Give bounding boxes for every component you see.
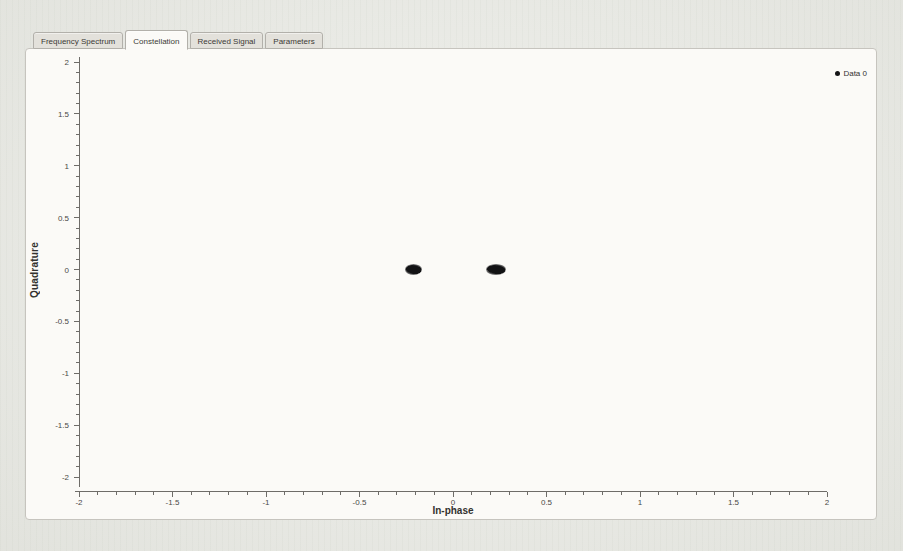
x-major-tick xyxy=(733,492,734,497)
x-minor-tick xyxy=(191,492,192,495)
y-minor-tick xyxy=(76,290,79,291)
plot-canvas[interactable]: In-phase Quadrature Data 0 -2-1.5-1-0.50… xyxy=(26,49,876,519)
x-major-tick xyxy=(79,492,80,497)
y-minor-tick xyxy=(76,155,79,156)
x-minor-tick xyxy=(471,492,472,495)
y-major-tick xyxy=(74,165,79,166)
x-minor-tick xyxy=(434,492,435,495)
x-minor-tick xyxy=(97,492,98,495)
y-tick-label: 1.5 xyxy=(41,110,69,119)
x-major-tick xyxy=(453,492,454,497)
x-major-tick xyxy=(359,492,360,497)
x-major-tick xyxy=(546,492,547,497)
y-tick-label: 2 xyxy=(41,58,69,67)
x-minor-tick xyxy=(621,492,622,495)
y-tick-label: -0.5 xyxy=(41,317,69,326)
y-tick-label: -1.5 xyxy=(41,421,69,430)
y-minor-tick xyxy=(76,134,79,135)
x-tick-label: 0 xyxy=(438,498,468,507)
y-major-tick xyxy=(74,269,79,270)
y-major-tick xyxy=(74,373,79,374)
x-tick-label: 1.5 xyxy=(719,498,749,507)
y-minor-tick xyxy=(76,93,79,94)
x-minor-tick xyxy=(509,492,510,495)
y-minor-tick xyxy=(76,362,79,363)
x-major-tick xyxy=(640,492,641,497)
x-minor-tick xyxy=(527,492,528,495)
app-window: { "tabs": { "items": [ { "label": "Frequ… xyxy=(0,0,903,551)
x-minor-tick xyxy=(658,492,659,495)
x-minor-tick xyxy=(284,492,285,495)
y-axis-line xyxy=(79,57,80,487)
x-minor-tick xyxy=(322,492,323,495)
x-minor-tick xyxy=(583,492,584,495)
y-major-tick xyxy=(74,321,79,322)
y-major-tick xyxy=(74,425,79,426)
x-minor-tick xyxy=(789,492,790,495)
y-minor-tick xyxy=(76,248,79,249)
y-minor-tick xyxy=(76,414,79,415)
x-minor-tick xyxy=(303,492,304,495)
legend-marker-dot-icon xyxy=(835,71,840,76)
x-minor-tick xyxy=(490,492,491,495)
y-minor-tick xyxy=(76,311,79,312)
y-tick-label: -2 xyxy=(41,473,69,482)
y-minor-tick xyxy=(76,352,79,353)
x-minor-tick xyxy=(415,492,416,495)
x-minor-tick xyxy=(135,492,136,495)
x-major-tick xyxy=(172,492,173,497)
y-major-tick xyxy=(74,477,79,478)
x-tick-label: 1 xyxy=(625,498,655,507)
x-minor-tick xyxy=(247,492,248,495)
x-tick-label: -1.5 xyxy=(158,498,188,507)
x-minor-tick xyxy=(714,492,715,495)
y-minor-tick xyxy=(76,207,79,208)
x-minor-tick xyxy=(340,492,341,495)
y-minor-tick xyxy=(76,404,79,405)
y-axis-title: Quadrature xyxy=(29,225,41,315)
tab-received-signal[interactable]: Received Signal xyxy=(190,32,264,49)
x-minor-tick xyxy=(396,492,397,495)
x-minor-tick xyxy=(770,492,771,495)
x-minor-tick xyxy=(808,492,809,495)
y-minor-tick xyxy=(76,259,79,260)
tab-bar: Frequency Spectrum Constellation Receive… xyxy=(33,28,325,49)
x-minor-tick xyxy=(378,492,379,495)
y-minor-tick xyxy=(76,196,79,197)
x-tick-label: -2 xyxy=(64,498,94,507)
x-tick-label: -0.5 xyxy=(345,498,375,507)
y-tick-label: 0 xyxy=(41,266,69,275)
y-minor-tick xyxy=(76,228,79,229)
y-minor-tick xyxy=(76,466,79,467)
constellation-cluster xyxy=(405,264,422,274)
x-minor-tick xyxy=(116,492,117,495)
x-minor-tick xyxy=(565,492,566,495)
y-minor-tick xyxy=(76,342,79,343)
constellation-panel: In-phase Quadrature Data 0 -2-1.5-1-0.50… xyxy=(25,48,877,520)
y-minor-tick xyxy=(76,176,79,177)
y-minor-tick xyxy=(76,383,79,384)
tab-parameters[interactable]: Parameters xyxy=(265,32,322,49)
y-minor-tick xyxy=(76,82,79,83)
legend-label: Data 0 xyxy=(843,69,867,78)
y-minor-tick xyxy=(76,300,79,301)
x-tick-label: 2 xyxy=(812,498,842,507)
y-minor-tick xyxy=(76,394,79,395)
y-minor-tick xyxy=(76,72,79,73)
x-minor-tick xyxy=(228,492,229,495)
x-minor-tick xyxy=(153,492,154,495)
y-major-tick xyxy=(74,113,79,114)
y-major-tick xyxy=(74,62,79,63)
x-minor-tick xyxy=(752,492,753,495)
y-tick-label: 0.5 xyxy=(41,214,69,223)
y-minor-tick xyxy=(76,445,79,446)
tab-frequency-spectrum[interactable]: Frequency Spectrum xyxy=(33,32,123,49)
x-minor-tick xyxy=(677,492,678,495)
x-minor-tick xyxy=(209,492,210,495)
y-minor-tick xyxy=(76,279,79,280)
y-minor-tick xyxy=(76,186,79,187)
x-major-tick xyxy=(827,492,828,497)
y-tick-label: -1 xyxy=(41,369,69,378)
x-minor-tick xyxy=(602,492,603,495)
tab-constellation[interactable]: Constellation xyxy=(125,30,187,50)
